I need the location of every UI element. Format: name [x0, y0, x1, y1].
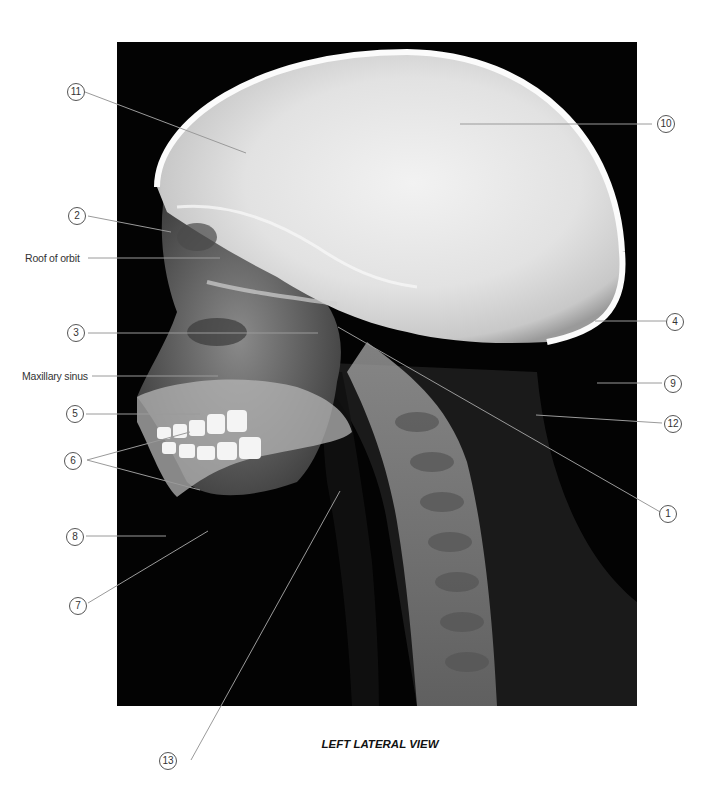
callout-6: 6: [64, 452, 82, 470]
callout-12: 12: [664, 415, 682, 433]
callout-1: 1: [659, 505, 677, 523]
skull-radiograph: [117, 42, 637, 706]
callout-4: 4: [666, 313, 684, 331]
callout-8: 8: [66, 528, 84, 546]
callout-13: 13: [159, 752, 177, 770]
callout-5: 5: [66, 405, 84, 423]
callout-2: 2: [68, 207, 86, 225]
callout-7: 7: [69, 597, 87, 615]
callout-11: 11: [67, 83, 85, 101]
figure-caption: LEFT LATERAL VIEW: [0, 738, 720, 750]
callout-9: 9: [664, 375, 682, 393]
label-roof-of-orbit: Roof of orbit: [25, 252, 80, 264]
label-maxillary-sinus: Maxillary sinus: [22, 370, 88, 382]
callout-10: 10: [657, 115, 675, 133]
xray-image: [117, 42, 637, 706]
callout-3: 3: [67, 324, 85, 342]
